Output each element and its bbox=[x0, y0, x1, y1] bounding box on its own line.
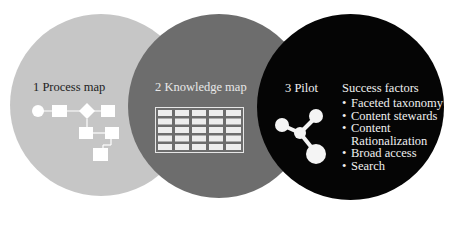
success-factors-title: Success factors bbox=[342, 81, 419, 96]
list-item: Faceted taxonomy bbox=[342, 97, 443, 110]
table-grid-icon bbox=[155, 107, 245, 153]
success-factors-list: Faceted taxonomy Content stewards Conten… bbox=[342, 97, 443, 173]
step-2-label: 2 Knowledge map bbox=[155, 80, 247, 95]
list-item: Content Rationalization bbox=[342, 122, 441, 147]
flowchart-icon bbox=[31, 101, 121, 163]
step-1-label: 1 Process map bbox=[33, 80, 105, 95]
molecule-network-icon bbox=[274, 103, 330, 167]
step-3-label: 3 Pilot bbox=[285, 81, 318, 96]
list-item: Search bbox=[342, 160, 443, 173]
